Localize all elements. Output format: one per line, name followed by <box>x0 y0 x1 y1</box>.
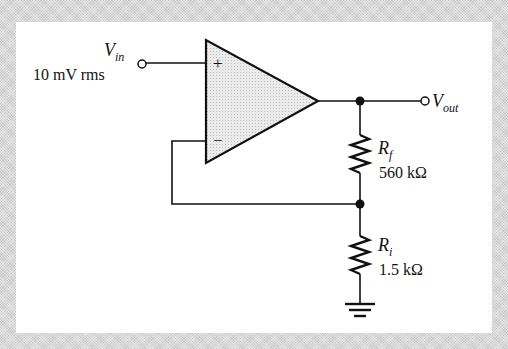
opamp-minus-symbol: − <box>213 131 223 150</box>
input-terminal: Vin 10 mV rms <box>33 40 206 83</box>
feedback-wire <box>172 141 360 204</box>
rf-value: 560 kΩ <box>379 164 427 181</box>
rf-resistor-icon <box>351 135 369 173</box>
output-terminal: Vout <box>318 91 459 115</box>
vin-label: Vin <box>104 40 124 64</box>
vin-terminal-icon <box>138 60 146 68</box>
feedback-path <box>172 141 365 209</box>
ri-label-sub: i <box>389 245 392 259</box>
ri-label-main: R <box>377 235 389 255</box>
vout-label: Vout <box>432 91 459 115</box>
vout-label-sub: out <box>443 101 459 115</box>
opamp: + − <box>206 40 318 163</box>
vin-value: 10 mV rms <box>33 66 105 83</box>
resistor-ri: Ri 1.5 kΩ <box>351 204 423 304</box>
circuit-diagram: + − Vin 10 mV rms Vout Rf 560 kΩ <box>0 0 508 349</box>
rf-label-sub: f <box>389 148 394 162</box>
ri-label: Ri <box>377 235 392 259</box>
opamp-plus-symbol: + <box>213 54 223 73</box>
ri-value: 1.5 kΩ <box>379 261 423 278</box>
rf-label-main: R <box>377 138 389 158</box>
rf-label: Rf <box>377 138 394 162</box>
vin-label-sub: in <box>115 50 124 64</box>
ground-icon <box>345 304 375 316</box>
resistor-rf: Rf 560 kΩ <box>351 101 427 204</box>
ri-resistor-icon <box>351 236 369 274</box>
vout-terminal-icon <box>421 97 429 105</box>
opamp-triangle <box>206 40 318 163</box>
